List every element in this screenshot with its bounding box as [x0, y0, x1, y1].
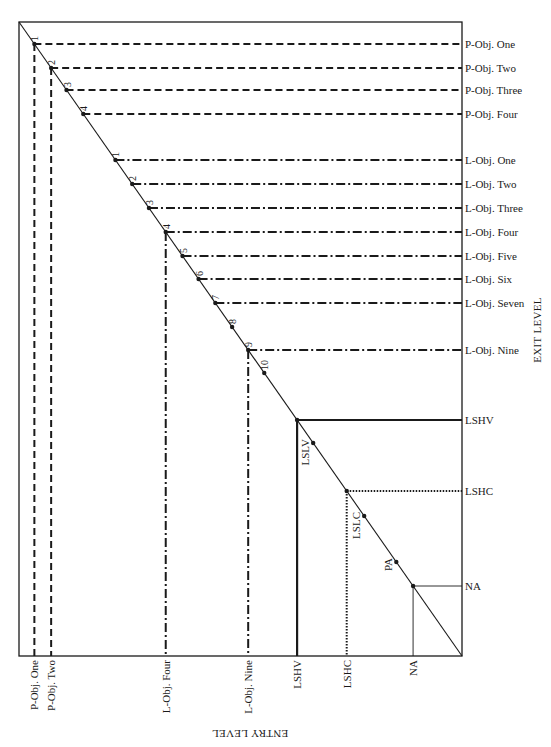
l-objective-exit-label: L-Obj. Three: [465, 202, 523, 214]
p-objective-exit-label: P-Obj. Four: [465, 108, 518, 120]
l-objective-number: 8: [227, 319, 238, 324]
level-exit-label-na: NA: [465, 580, 481, 592]
entry-level-axis-title: ENTRY LEVEL: [212, 728, 289, 740]
level-entry-label-lshv: LSHV: [291, 660, 303, 689]
entry-exit-level-diagram: 1P-Obj. OneP-Obj. One2P-Obj. TwoP-Obj. T…: [0, 0, 551, 747]
p-objective-point: [32, 42, 36, 46]
l-objective-entry-label: L-Obj. Four: [160, 660, 172, 714]
l-objective-number: 4: [161, 224, 172, 229]
l-objective-point: [130, 182, 134, 186]
level-entry-label-lshc: LSHC: [341, 660, 353, 688]
level-point-lshv: [295, 418, 299, 422]
l-objective-point: [230, 325, 234, 329]
p-objective-point: [49, 66, 53, 70]
diagonal-point-label-pa: PA: [382, 558, 394, 571]
p-objective-exit-label: P-Obj. One: [465, 38, 515, 50]
l-objective-number: 3: [144, 200, 155, 205]
diagonal-point-lslv: [311, 441, 315, 445]
l-objective-number: 7: [210, 295, 221, 300]
l-objective-number: 2: [127, 176, 138, 181]
l-objective-exit-label: L-Obj. One: [465, 154, 516, 166]
labels: 1P-Obj. OneP-Obj. One2P-Obj. TwoP-Obj. T…: [28, 36, 524, 714]
l-objective-exit-label: L-Obj. Four: [465, 226, 519, 238]
l-objective-exit-label: L-Obj. Two: [465, 178, 517, 190]
level-entry-label-na: NA: [407, 660, 419, 676]
l-objective-point: [246, 348, 250, 352]
l-objective-number: 10: [259, 360, 270, 370]
l-objective-point: [213, 301, 217, 305]
level-point-lshc: [345, 489, 349, 493]
diagonal-point-label-lslv: LSLV: [299, 439, 311, 466]
p-objective-number: 2: [46, 60, 57, 65]
l-objective-exit-label: L-Obj. Six: [465, 273, 513, 285]
l-objective-point: [113, 158, 117, 162]
level-exit-label-lshc: LSHC: [465, 485, 493, 497]
p-objective-entry-label: P-Obj. One: [28, 660, 40, 710]
p-objective-entry-label: P-Obj. Two: [45, 660, 57, 711]
exit-level-axis-title: EXIT LEVEL: [531, 297, 543, 362]
p-objective-number: 4: [78, 106, 89, 111]
p-objective-number: 1: [29, 36, 40, 41]
l-objective-number: 9: [243, 342, 254, 347]
l-objective-point: [180, 254, 184, 258]
l-objective-point: [262, 371, 266, 375]
l-objective-number: 1: [110, 152, 121, 157]
l-objective-exit-label: L-Obj. Seven: [465, 297, 525, 309]
l-objective-exit-label: L-Obj. Nine: [465, 344, 519, 356]
p-objective-exit-label: P-Obj. Three: [465, 84, 522, 96]
l-objective-point: [147, 206, 151, 210]
diagonal-point-label-lslc: LSLC: [350, 512, 362, 539]
p-objective-point: [81, 112, 85, 116]
l-objective-number: 5: [178, 248, 189, 253]
l-objective-point: [164, 230, 168, 234]
diagonal-point-lslc: [362, 514, 366, 518]
l-objective-entry-label: L-Obj. Nine: [242, 660, 254, 714]
level-exit-label-lshv: LSHV: [465, 414, 494, 426]
p-objective-number: 3: [62, 82, 73, 87]
l-objective-number: 6: [194, 271, 205, 276]
p-objective-exit-label: P-Obj. Two: [465, 62, 516, 74]
p-objective-point: [64, 88, 68, 92]
level-point-na: [411, 584, 415, 588]
diagonal-point-pa: [394, 560, 398, 564]
l-objective-exit-label: L-Obj. Five: [465, 250, 517, 262]
l-objective-point: [196, 277, 200, 281]
